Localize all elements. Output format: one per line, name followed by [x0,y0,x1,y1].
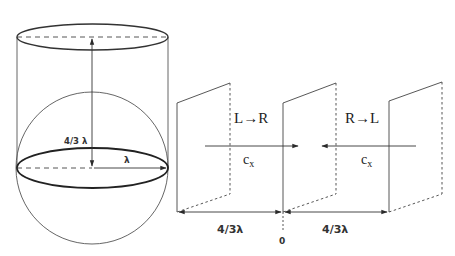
velocity-label-left: cx [243,152,254,169]
radius-label: λ [124,155,130,165]
plate-right [389,82,442,212]
height-label: 4/3 λ [64,136,88,146]
plates-figure [177,82,442,230]
origin-label: 0 [279,236,285,246]
plate-center [283,83,336,212]
spacing-right-label: 4/3λ [322,223,348,236]
flux-label-left-to-right: L→R [234,110,268,126]
cylinder-sphere-figure: 4/3 λ λ [16,24,168,244]
velocity-label-right: cx [361,152,372,169]
flux-label-right-to-left: R→L [345,110,379,126]
spacing-left-label: 4/3λ [217,223,243,236]
diagram-canvas: 4/3 λ λ L→R R→L cx c [0,0,455,256]
plate-left [177,83,230,212]
